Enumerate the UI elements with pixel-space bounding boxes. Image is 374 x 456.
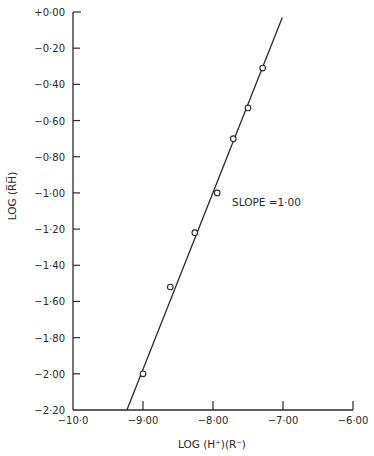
fit-line-segment (127, 17, 282, 410)
annotation-slope: SLOPE =1·00 (232, 196, 301, 208)
y-axis-label: LOG (R̅H̅) (6, 172, 18, 221)
y-tick-label: −2·00 (34, 369, 65, 380)
data-point-marker (245, 105, 251, 111)
y-tick-label: −1·60 (34, 296, 65, 307)
data-point-marker (168, 284, 174, 290)
y-ticks: +0·00−0·20−0·40−0·60−0·80−1·00−1·20−1·40… (34, 7, 81, 416)
x-tick-label: −9·00 (128, 415, 159, 426)
data-point-marker (192, 230, 198, 236)
y-tick-label: −0·60 (34, 116, 65, 127)
y-tick-label: −1·00 (34, 188, 65, 199)
data-point-marker (260, 65, 266, 71)
x-tick-label: −8·00 (198, 415, 229, 426)
data-point-marker (214, 190, 220, 196)
data-point-marker (140, 371, 146, 377)
data-point-marker (231, 136, 237, 142)
x-tick-label: −7·00 (268, 415, 299, 426)
axes (73, 12, 353, 410)
y-tick-label: −1·20 (34, 224, 65, 235)
x-ticks: −10·0−9·00−8·00−7·00−6·00 (58, 401, 369, 426)
y-tick-label: −0·20 (34, 43, 65, 54)
y-tick-label: −0·40 (34, 79, 65, 90)
x-axis-label: LOG (H⁺)(R⁻) (178, 438, 246, 450)
x-tick-label: −10·0 (58, 415, 89, 426)
y-tick-label: −0·80 (34, 152, 65, 163)
y-tick-label: +0·00 (34, 7, 65, 18)
chart: +0·00−0·20−0·40−0·60−0·80−1·00−1·20−1·40… (0, 0, 374, 456)
fit-line (127, 17, 282, 410)
y-tick-label: −1·80 (34, 333, 65, 344)
x-tick-label: −6·00 (338, 415, 369, 426)
y-tick-label: −1·40 (34, 260, 65, 271)
